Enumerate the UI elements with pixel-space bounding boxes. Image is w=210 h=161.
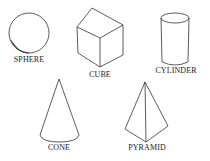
cone-shape — [40, 79, 79, 142]
sphere-shape — [9, 13, 49, 53]
pyramid-shape — [125, 82, 168, 142]
cube-shape — [77, 8, 123, 67]
shapes-diagram — [0, 0, 210, 161]
cube-label: CUBE — [89, 70, 111, 79]
cone-label: CONE — [48, 143, 70, 152]
cylinder-label: CYLINDER — [155, 66, 196, 75]
cylinder-shape — [161, 13, 189, 65]
pyramid-label: PYRAMID — [128, 143, 166, 152]
sphere-label: SPHERE — [14, 55, 44, 64]
